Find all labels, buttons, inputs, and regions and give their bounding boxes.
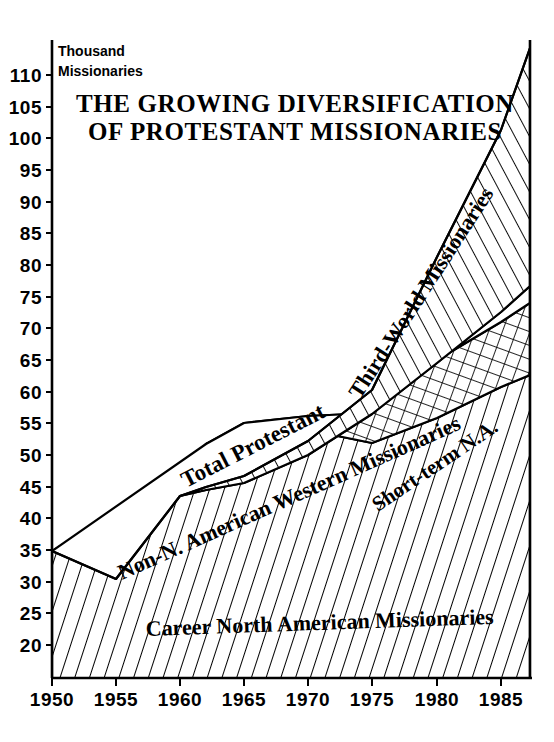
x-tick-label: 1975: [350, 689, 394, 710]
x-tick-label: 1970: [286, 689, 330, 710]
x-tick-label: 1980: [415, 689, 459, 710]
y-tick-label: 20: [20, 635, 42, 656]
y-tick-label: 75: [20, 287, 42, 308]
y-tick-label: 105: [9, 97, 42, 118]
x-tick-label: 1950: [30, 689, 74, 710]
chart-figure: 110 105 100 95 90 85 80 75 70 65 60 55 5…: [0, 0, 554, 742]
y-tick-label: 30: [20, 572, 42, 593]
y-tick-label: 80: [20, 255, 42, 276]
y-tick-label: 110: [10, 65, 42, 86]
y-tick-label: 65: [20, 350, 42, 371]
y-tick-label: 95: [20, 160, 42, 181]
chart-title: THE GROWING DIVERSIFICATION OF PROTESTAN…: [76, 90, 514, 145]
x-tick-label: 1960: [158, 689, 202, 710]
y-tick-label: 35: [20, 540, 42, 561]
y-axis-unit-line2: Missionaries: [58, 63, 143, 79]
x-tick-label: 1985: [479, 689, 523, 710]
y-tick-label: 90: [20, 192, 42, 213]
chart-svg: 110 105 100 95 90 85 80 75 70 65 60 55 5…: [0, 0, 554, 742]
y-tick-label: 100: [9, 128, 42, 149]
x-tick-label: 1965: [222, 689, 266, 710]
y-tick-label: 55: [20, 413, 42, 434]
y-tick-label: 50: [20, 445, 42, 466]
x-tick-label: 1955: [94, 689, 138, 710]
y-tick-label: 85: [20, 223, 42, 244]
y-tick-label: 45: [20, 477, 42, 498]
y-tick-label: 60: [20, 382, 42, 403]
y-tick-label: 25: [20, 603, 42, 624]
y-tick-label: 70: [20, 318, 42, 339]
chart-title-line1: THE GROWING DIVERSIFICATION: [76, 90, 514, 117]
y-axis-unit-line1: Thousand: [58, 43, 125, 59]
y-tick-label: 40: [20, 508, 42, 529]
chart-title-line2: OF PROTESTANT MISSIONARIES: [88, 118, 502, 145]
